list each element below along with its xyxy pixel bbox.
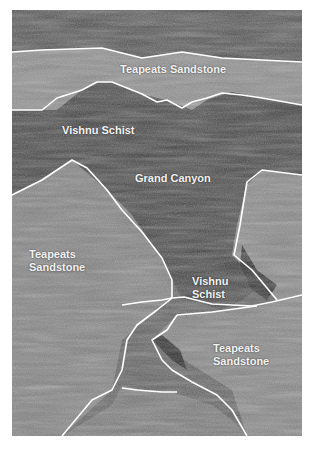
label-teapeats-left-line1: Teapeats xyxy=(29,248,76,261)
label-teapeats-right-line1: Teapeats xyxy=(213,342,260,355)
canyon-photo: Teapeats Sandstone Vishnu Schist Grand C… xyxy=(12,10,302,436)
label-teapeats-right-line2: Sandstone xyxy=(213,355,269,368)
label-grand-canyon: Grand Canyon xyxy=(135,172,211,185)
label-vishnu-mid-line1: Vishnu xyxy=(192,275,228,288)
label-vishnu-mid-line2: Schist xyxy=(192,288,225,301)
label-teapeats-sandstone-top: Teapeats Sandstone xyxy=(120,63,226,76)
label-teapeats-left-line2: Sandstone xyxy=(29,261,85,274)
label-vishnu-schist-top: Vishnu Schist xyxy=(62,124,135,137)
